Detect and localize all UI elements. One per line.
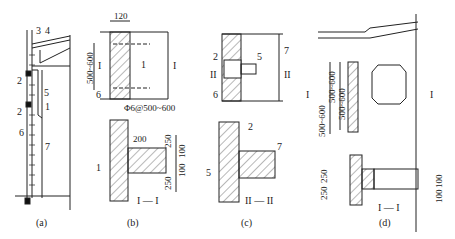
label-3: 3 [36, 26, 41, 36]
section-title-c: II — II [245, 196, 273, 206]
panel-a-elevation [15, 30, 70, 210]
caption-d: (d) [379, 218, 391, 228]
rebar-spec: Φ6@500~600 [124, 104, 175, 113]
section-title-d: I — I [378, 203, 400, 213]
dim-d-250a: 250 [320, 170, 329, 184]
label-c-sec-2: 2 [248, 122, 253, 132]
dim-100-top: 100 [178, 145, 187, 159]
section-mark-b-right: I [173, 61, 176, 71]
dim-500-600-b: 500~600 [86, 52, 95, 84]
label-c-2: 2 [213, 52, 218, 62]
dim-d-2: 500~600 [328, 71, 337, 103]
dim-d-100b: 100 [435, 190, 444, 204]
label-7: 7 [45, 142, 50, 152]
label-4: 4 [45, 26, 50, 36]
caption-b: (b) [127, 218, 139, 228]
label-b-sec-1: 1 [96, 163, 101, 173]
label-b-1: 1 [141, 60, 146, 70]
label-c-sec-5: 5 [206, 168, 211, 178]
dim-250-bottom: 250 [164, 177, 173, 191]
label-c-7: 7 [284, 46, 289, 56]
section-mark-d-left: I [306, 90, 309, 100]
label-1: 1 [45, 102, 50, 112]
section-mark-c-left: II [210, 70, 217, 80]
panel-c-section [219, 122, 275, 202]
dim-100-bottom: 100 [178, 164, 187, 178]
dim-d-250b: 250 [320, 187, 329, 201]
label-c-6: 6 [213, 90, 218, 100]
section-mark-b-left: I [98, 61, 101, 71]
label-c-sec-7: 7 [277, 142, 282, 152]
dim-d-1: 500~600 [318, 105, 327, 137]
label-2b: 2 [17, 107, 22, 117]
panel-d-elevation [318, 14, 418, 232]
label-2a: 2 [17, 76, 22, 86]
dim-d-3: 500~600 [338, 88, 347, 120]
dim-250-top: 250 [164, 135, 173, 149]
dim-d-100a: 100 [435, 175, 444, 189]
section-mark-d-right: I [430, 90, 433, 100]
section-title-b: I — I [137, 196, 159, 206]
label-6: 6 [19, 128, 24, 138]
label-b-6: 6 [96, 90, 101, 100]
dim-120: 120 [114, 12, 128, 21]
dim-200: 200 [133, 135, 147, 144]
label-5: 5 [44, 88, 49, 98]
label-c-5: 5 [257, 52, 262, 62]
panel-c-plan [222, 34, 283, 101]
caption-a: (a) [36, 218, 47, 228]
caption-c: (c) [241, 218, 252, 228]
panel-b-plan [94, 21, 168, 99]
section-mark-c-right: II [284, 70, 291, 80]
